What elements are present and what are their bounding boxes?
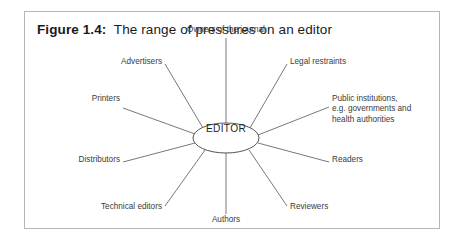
node-label-readers: Readers <box>332 155 363 165</box>
node-label-reviewers-line-0: Reviewers <box>290 202 328 212</box>
spoke-technical <box>165 150 205 206</box>
node-label-advert-line-0: Advertisers <box>22 57 162 67</box>
node-label-technical-line-0: Technical editors <box>22 202 162 212</box>
spoke-public <box>258 107 329 135</box>
node-label-readers-line-0: Readers <box>332 155 363 165</box>
node-label-technical: Technical editors <box>22 202 162 212</box>
node-label-authors: Authors <box>156 215 296 225</box>
node-label-public-line-1: e.g. governments and <box>332 104 411 114</box>
spoke-advert <box>165 64 203 128</box>
node-label-owners-line-0: Owners of the journal <box>156 25 296 35</box>
figure-container: Figure 1.4: The range of pressures on an… <box>24 11 440 229</box>
node-label-distrib: Distributors <box>0 155 120 165</box>
node-label-printers-line-0: Printers <box>0 94 120 104</box>
spoke-readers <box>258 143 329 162</box>
spoke-printers <box>123 108 195 134</box>
node-label-public-line-0: Public institutions, <box>332 94 411 104</box>
node-label-legal-line-0: Legal restraints <box>290 57 346 67</box>
node-label-authors-line-0: Authors <box>156 215 296 225</box>
node-label-advert: Advertisers <box>22 57 162 67</box>
spoke-reviewers <box>249 150 287 206</box>
node-label-legal: Legal restraints <box>290 57 346 67</box>
editor-center-label: EDITOR <box>193 123 259 134</box>
node-label-printers: Printers <box>0 94 120 104</box>
node-label-distrib-line-0: Distributors <box>0 155 120 165</box>
spoke-legal <box>250 64 287 128</box>
node-label-owners: Owners of the journal <box>156 25 296 35</box>
node-label-public-line-2: health authorities <box>332 115 411 125</box>
spoke-distrib <box>123 143 195 162</box>
node-label-reviewers: Reviewers <box>290 202 328 212</box>
node-label-public: Public institutions,e.g. governments and… <box>332 94 411 125</box>
